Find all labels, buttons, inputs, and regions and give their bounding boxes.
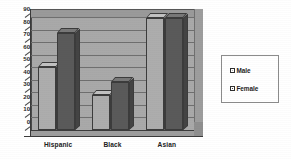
plot-right-wall xyxy=(194,9,203,122)
bar-front-face xyxy=(111,82,129,130)
x-category-label: Asian xyxy=(137,141,197,149)
female-swatch-icon xyxy=(230,86,235,91)
x-category-label: Black xyxy=(83,141,143,149)
y-tick-label: 10 xyxy=(13,106,30,112)
bar-hispanic-male xyxy=(38,67,56,130)
bar-front-face xyxy=(92,95,110,130)
bar-side-face xyxy=(75,29,80,130)
bar-front-face xyxy=(38,67,56,130)
y-tick-label: 80 xyxy=(13,19,30,25)
bar-black-male xyxy=(92,95,110,130)
y-tick-label: 40 xyxy=(13,69,30,75)
bar-side-face xyxy=(183,14,188,130)
legend-item-male: Male xyxy=(230,67,251,74)
y-tick-label: 20 xyxy=(13,94,30,100)
bar-asian-female xyxy=(165,18,183,130)
bar-black-female xyxy=(111,82,129,130)
x-axis-line xyxy=(24,136,203,137)
bar-hispanic-female xyxy=(57,33,75,130)
bar-side-face xyxy=(129,78,134,130)
bar-front-face xyxy=(57,33,75,130)
chart-screenshot: 9080706050403020100 HispanicBlackAsian M… xyxy=(0,0,291,159)
x-category-label: Hispanic xyxy=(28,141,88,149)
legend-item-female: Female xyxy=(230,85,258,92)
y-tick-label: 90 xyxy=(13,6,30,12)
bar-front-face xyxy=(146,18,164,130)
y-tick-label: 70 xyxy=(13,31,30,37)
y-tick-label: 30 xyxy=(13,81,30,87)
y-axis-tick-labels: 9080706050403020100 xyxy=(13,0,30,159)
y-tick-label: 0 xyxy=(13,119,30,125)
y-tick-label: 60 xyxy=(13,44,30,50)
male-swatch-icon xyxy=(230,68,235,73)
bar-front-face xyxy=(165,18,183,130)
y-tick-label: 50 xyxy=(13,56,30,62)
legend-label-female: Female xyxy=(237,85,259,92)
chart-legend: Male Female xyxy=(221,55,279,103)
legend-label-male: Male xyxy=(237,67,251,74)
plot-floor-right-edge xyxy=(194,122,203,137)
y-axis-line xyxy=(30,9,31,137)
bar-asian-male xyxy=(146,18,164,130)
bar-chart: 9080706050403020100 HispanicBlackAsian xyxy=(0,0,225,159)
